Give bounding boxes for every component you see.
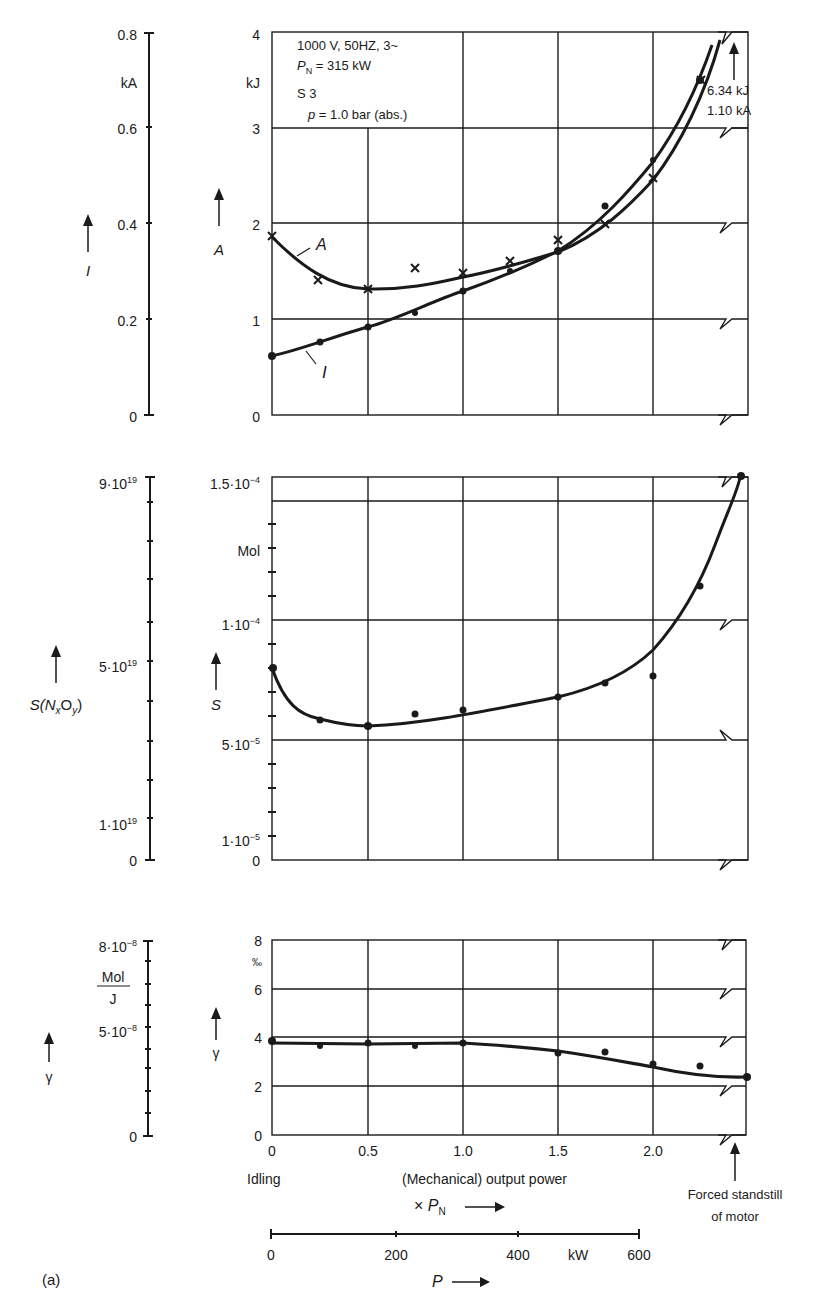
curve-label-i: I bbox=[322, 363, 327, 382]
up-arrow-icon bbox=[211, 652, 221, 690]
i-tick-0: 0 bbox=[129, 409, 137, 425]
nox-tick-5e19: 5·1019 bbox=[99, 658, 137, 675]
figure-label: (a) bbox=[42, 1271, 60, 1288]
kw-tick-600: 600 bbox=[627, 1247, 651, 1263]
bottom-chart: 8·10−8 Mol J 5·10−8 0 γ 8 ‰ 6 4 2 0 γ bbox=[44, 933, 782, 1290]
p-symbol: P bbox=[432, 1273, 443, 1290]
stall-current: 1.10 kA bbox=[707, 103, 751, 118]
up-arrow-icon bbox=[44, 1032, 54, 1062]
s-tick-1e-4: 1·10−4 bbox=[222, 616, 260, 633]
a-unit: kJ bbox=[246, 75, 260, 91]
kw-unit: kW bbox=[568, 1247, 589, 1263]
g-tick-8: 8 bbox=[254, 933, 262, 949]
up-arrow-icon bbox=[214, 188, 224, 226]
nox-axis bbox=[145, 477, 155, 860]
info-voltage: 1000 V, 50HZ, 3~ bbox=[297, 38, 398, 53]
a-tick-0: 0 bbox=[252, 409, 260, 425]
mol-tick-5e-8: 5·10−8 bbox=[99, 1023, 137, 1040]
mol-unit-numerator: Mol bbox=[102, 969, 125, 985]
middle-grid bbox=[272, 477, 748, 870]
s-tick-1e-5: 1·10−5 bbox=[222, 832, 260, 849]
g-tick-2: 2 bbox=[254, 1079, 262, 1095]
current-axis bbox=[144, 33, 154, 415]
up-arrow-icon bbox=[211, 1007, 221, 1040]
info-pressure: p = 1.0 bar (abs.) bbox=[307, 107, 407, 122]
s-symbol: S bbox=[211, 696, 221, 713]
mol-unit-denominator: J bbox=[110, 991, 117, 1007]
s-tick-5e-5: 5·10−5 bbox=[222, 736, 260, 753]
mol-tick-0: 0 bbox=[129, 1129, 137, 1145]
mol-per-joule-axis bbox=[143, 941, 153, 1136]
x-axis-label: (Mechanical) output power bbox=[402, 1171, 567, 1187]
kw-tick-400: 400 bbox=[506, 1247, 530, 1263]
x-tick-10: 1.0 bbox=[453, 1143, 473, 1159]
stall-energy: 6.34 kJ bbox=[707, 83, 749, 98]
x-tick-15: 1.5 bbox=[548, 1143, 568, 1159]
x-tick-05: 0.5 bbox=[358, 1143, 378, 1159]
mol-tick-8e-8: 8·10−8 bbox=[99, 938, 137, 955]
idling-label: Idling bbox=[247, 1171, 280, 1187]
x-tick-0: 0 bbox=[268, 1143, 276, 1159]
i-symbol: I bbox=[86, 262, 90, 279]
i-tick-08: 0.8 bbox=[118, 27, 138, 43]
a-tick-1: 1 bbox=[252, 313, 260, 329]
i-tick-02: 0.2 bbox=[118, 313, 138, 329]
gamma-symbol-right: γ bbox=[213, 1045, 220, 1061]
kw-tick-0: 0 bbox=[267, 1247, 275, 1263]
curve-label-a: A bbox=[315, 236, 327, 253]
gamma-symbol-left: γ bbox=[46, 1069, 53, 1085]
a-tick-3: 3 bbox=[252, 121, 260, 137]
g-unit-permille: ‰ bbox=[252, 957, 262, 968]
s-tick-0: 0 bbox=[252, 853, 260, 869]
i-tick-04: 0.4 bbox=[118, 217, 138, 233]
i-tick-06: 0.6 bbox=[118, 121, 138, 137]
curve-gamma bbox=[272, 1043, 746, 1077]
nox-tick-9e19: 9·1019 bbox=[99, 475, 137, 492]
chart-canvas: 0.8 kA 0.6 0.4 0.2 0 I 4 kJ 3 2 1 0 A bbox=[0, 0, 822, 1314]
s-tick-1p5e-4: 1.5·10−4 bbox=[210, 475, 260, 492]
s-unit: Mol bbox=[237, 543, 260, 559]
x-axis-label-pn: × PN bbox=[414, 1197, 446, 1217]
nox-tick-0: 0 bbox=[129, 853, 137, 869]
info-duty: S 3 bbox=[297, 86, 317, 101]
nox-symbol: S(NxOy) bbox=[30, 696, 83, 716]
up-arrow-icon bbox=[729, 42, 739, 80]
middle-chart: 9·1019 5·1019 1·1019 0 S(NxOy) 1.5·10−4 … bbox=[30, 472, 748, 870]
curve-s bbox=[272, 478, 740, 726]
i-unit: kA bbox=[121, 75, 138, 91]
a-symbol: A bbox=[213, 241, 224, 258]
up-arrow-icon bbox=[83, 214, 93, 252]
kw-axis bbox=[271, 1229, 639, 1239]
g-tick-4: 4 bbox=[254, 1030, 262, 1046]
a-tick-4: 4 bbox=[252, 27, 260, 43]
stall-label-line1: Forced standstill bbox=[688, 1187, 783, 1202]
nox-tick-1e19: 1·1019 bbox=[99, 816, 137, 833]
x-tick-20: 2.0 bbox=[643, 1143, 663, 1159]
top-chart: 0.8 kA 0.6 0.4 0.2 0 I 4 kJ 3 2 1 0 A bbox=[83, 27, 751, 425]
up-arrow-icon bbox=[730, 1142, 740, 1181]
up-arrow-icon bbox=[51, 645, 61, 683]
stall-label-line2: of motor bbox=[711, 1209, 759, 1224]
a-tick-2: 2 bbox=[252, 217, 260, 233]
s-markers bbox=[269, 472, 745, 730]
g-tick-6: 6 bbox=[254, 982, 262, 998]
g-tick-0: 0 bbox=[254, 1128, 262, 1144]
kw-tick-200: 200 bbox=[384, 1247, 408, 1263]
